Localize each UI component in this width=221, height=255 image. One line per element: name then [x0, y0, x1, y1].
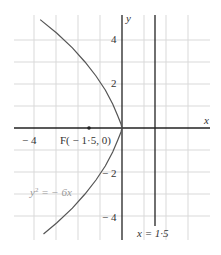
y-tick-4: 4: [111, 33, 117, 45]
x-axis-label: x: [203, 114, 209, 126]
equation-rest: = − 6x: [38, 186, 72, 198]
directrix-label: x = 1·5: [136, 227, 169, 239]
y-tick-neg4: − 4: [102, 211, 117, 223]
focus-point: [87, 126, 91, 130]
focus-label: F( − 1·5, 0): [60, 134, 111, 147]
y-tick-neg2: − 2: [102, 167, 116, 179]
y-axis-label: y: [125, 12, 131, 24]
equation-label: y2 = − 6x: [29, 186, 72, 198]
parabola-curve-path: [40, 20, 122, 234]
y-tick-2: 2: [111, 77, 117, 89]
x-tick-neg4: − 4: [22, 134, 37, 146]
parabola-curve: [41, 20, 122, 128]
parabola-diagram: y x 4 2 − 2 − 4 − 4 F( − 1·5, 0) y2 = − …: [0, 0, 221, 255]
